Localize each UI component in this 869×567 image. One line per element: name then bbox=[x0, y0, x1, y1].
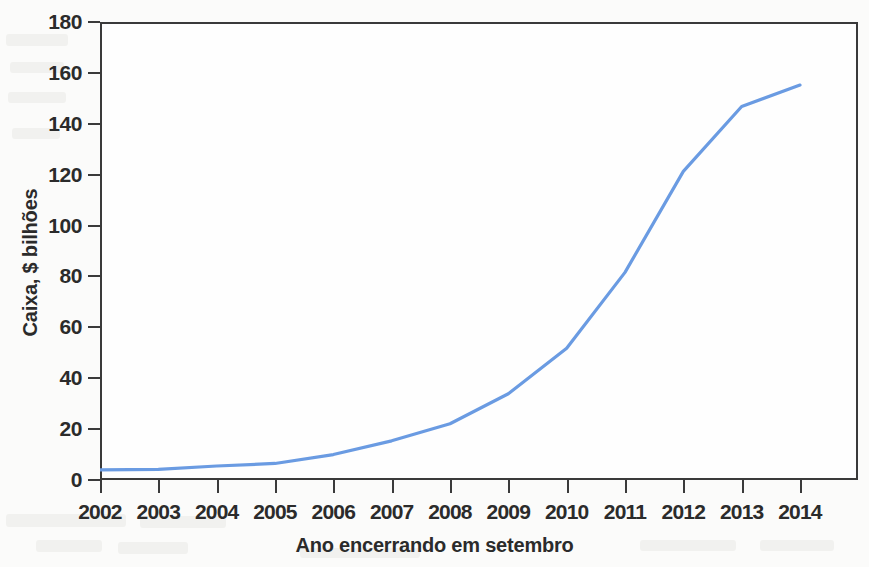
x-tick-mark bbox=[158, 480, 160, 493]
x-tick-mark bbox=[625, 480, 627, 493]
y-tick-mark bbox=[88, 275, 100, 277]
y-tick-mark bbox=[88, 225, 100, 227]
y-tick-mark bbox=[88, 377, 100, 379]
x-axis-title: Ano encerrando em setembro bbox=[0, 534, 869, 557]
x-tick-mark bbox=[450, 480, 452, 493]
y-axis-title: Caixa, $ bilhões bbox=[19, 133, 42, 393]
y-tick-label: 20 bbox=[20, 417, 82, 441]
data-series-line bbox=[100, 85, 800, 470]
x-tick-mark bbox=[800, 480, 802, 493]
y-tick-mark bbox=[88, 174, 100, 176]
y-tick-mark bbox=[88, 21, 100, 23]
x-tick-mark bbox=[333, 480, 335, 493]
x-tick-mark bbox=[100, 480, 102, 493]
x-tick-mark bbox=[508, 480, 510, 493]
y-tick-label: 180 bbox=[20, 10, 82, 34]
y-tick-label: 0 bbox=[20, 468, 82, 492]
x-tick-label: 2014 bbox=[765, 500, 835, 524]
y-tick-label: 160 bbox=[20, 61, 82, 85]
y-tick-mark bbox=[88, 479, 100, 481]
x-tick-mark bbox=[392, 480, 394, 493]
x-tick-mark bbox=[567, 480, 569, 493]
x-tick-mark bbox=[742, 480, 744, 493]
x-tick-mark bbox=[275, 480, 277, 493]
chart-figure: 020406080100120140160180 Caixa, $ bilhõe… bbox=[0, 0, 869, 567]
y-tick-mark bbox=[88, 326, 100, 328]
x-tick-mark bbox=[683, 480, 685, 493]
y-tick-mark bbox=[88, 428, 100, 430]
y-tick-mark bbox=[88, 72, 100, 74]
y-tick-mark bbox=[88, 123, 100, 125]
chart-canvas bbox=[100, 22, 858, 480]
x-tick-mark bbox=[217, 480, 219, 493]
